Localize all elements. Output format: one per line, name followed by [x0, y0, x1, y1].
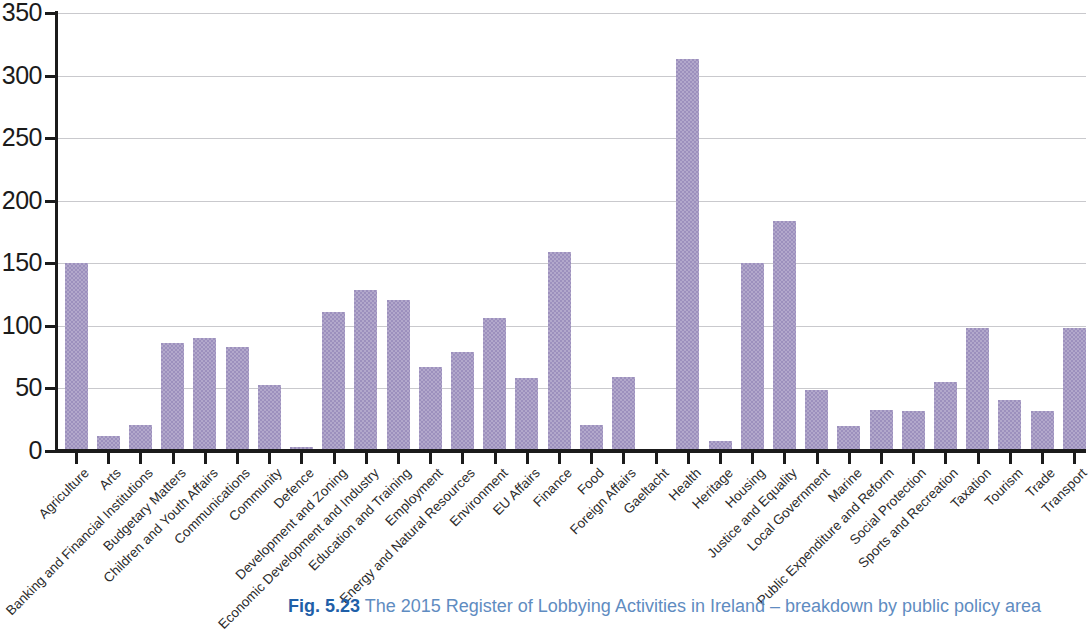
- bar: [515, 378, 538, 451]
- y-tick-label-150: 150: [2, 250, 42, 275]
- bar: [934, 382, 957, 451]
- x-tick-mark: [1073, 453, 1076, 464]
- x-tick-mark: [751, 453, 754, 464]
- bar: [129, 425, 152, 451]
- x-axis-label: Arts: [97, 466, 124, 493]
- bar: [1031, 411, 1054, 451]
- x-tick-mark: [848, 453, 851, 464]
- bar: [741, 263, 764, 451]
- x-axis-line: [55, 449, 1086, 453]
- y-tick-mark-200: [45, 200, 57, 203]
- x-tick-mark: [590, 453, 593, 464]
- bar: [193, 338, 216, 451]
- x-tick-mark: [429, 453, 432, 464]
- bar: [966, 328, 989, 451]
- x-axis-label: Agriculture: [36, 466, 91, 521]
- bar: [612, 377, 635, 451]
- x-tick-mark: [719, 453, 722, 464]
- x-tick-mark: [139, 453, 142, 464]
- y-tick-mark-100: [45, 325, 57, 328]
- x-tick-mark: [526, 453, 529, 464]
- x-tick-mark: [880, 453, 883, 464]
- x-tick-mark: [268, 453, 271, 464]
- x-tick-mark: [365, 453, 368, 464]
- y-tick-label-200: 200: [2, 188, 42, 213]
- y-tick-mark-350: [45, 12, 57, 15]
- x-tick-mark: [333, 453, 336, 464]
- y-tick-mark-50: [45, 387, 57, 390]
- x-tick-mark: [1009, 453, 1012, 464]
- bar: [451, 352, 474, 451]
- bar: [483, 318, 506, 451]
- x-tick-mark: [172, 453, 175, 464]
- y-tick-mark-0: [45, 450, 57, 453]
- x-tick-mark: [912, 453, 915, 464]
- bar: [773, 221, 796, 451]
- x-tick-mark: [75, 453, 78, 464]
- bar: [998, 400, 1021, 451]
- bar: [65, 263, 88, 451]
- bar: [419, 367, 442, 451]
- bar: [322, 312, 345, 451]
- x-tick-mark: [1041, 453, 1044, 464]
- x-tick-mark: [558, 453, 561, 464]
- figure-number: Fig. 5.23: [288, 596, 360, 616]
- bar: [1063, 328, 1086, 451]
- bar: [870, 410, 893, 451]
- x-tick-mark: [300, 453, 303, 464]
- x-tick-mark: [107, 453, 110, 464]
- bar-series: [57, 13, 1086, 451]
- bar: [902, 411, 925, 451]
- y-tick-label-100: 100: [2, 313, 42, 338]
- x-tick-mark: [494, 453, 497, 464]
- bar: [805, 390, 828, 451]
- x-tick-mark: [397, 453, 400, 464]
- bar: [258, 385, 281, 451]
- figure-caption: Fig. 5.23 The 2015 Register of Lobbying …: [288, 596, 1090, 617]
- x-tick-mark: [461, 453, 464, 464]
- bar: [354, 290, 377, 451]
- x-tick-mark: [977, 453, 980, 464]
- x-tick-mark: [236, 453, 239, 464]
- bar: [837, 426, 860, 451]
- bar: [161, 343, 184, 451]
- y-tick-label-250: 250: [2, 125, 42, 150]
- bar: [387, 300, 410, 451]
- x-tick-mark: [783, 453, 786, 464]
- x-tick-mark: [816, 453, 819, 464]
- y-tick-mark-250: [45, 137, 57, 140]
- x-tick-mark: [622, 453, 625, 464]
- figure-caption-text: The 2015 Register of Lobbying Activities…: [360, 596, 1041, 616]
- y-tick-label-0: 0: [29, 438, 42, 463]
- x-tick-mark: [687, 453, 690, 464]
- bar: [548, 252, 571, 451]
- y-tick-label-50: 50: [15, 375, 42, 400]
- bar: [580, 425, 603, 451]
- bar: [676, 59, 699, 451]
- x-tick-mark: [655, 453, 658, 464]
- x-tick-mark: [204, 453, 207, 464]
- y-tick-mark-300: [45, 75, 57, 78]
- y-tick-mark-150: [45, 262, 57, 265]
- y-tick-label-350: 350: [2, 0, 42, 25]
- x-tick-mark: [944, 453, 947, 464]
- y-tick-label-300: 300: [2, 63, 42, 88]
- bar: [226, 347, 249, 451]
